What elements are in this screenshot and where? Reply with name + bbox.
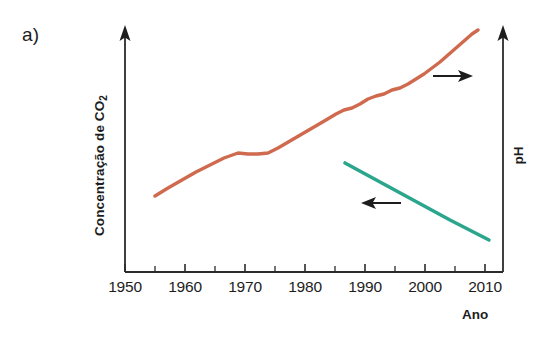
plot-area (0, 0, 547, 345)
series-co2-line (155, 30, 478, 196)
arrow-right-icon (433, 70, 473, 82)
y-axis-right (498, 25, 509, 272)
figure-panel-a: a) Concentração de CO2 pH Ano 1950 1960 … (0, 0, 547, 345)
x-axis (125, 264, 503, 272)
arrow-left-icon (361, 197, 401, 209)
y-axis-left (120, 25, 131, 272)
